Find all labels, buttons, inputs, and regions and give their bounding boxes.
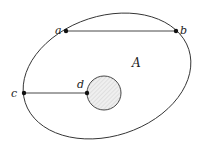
label-d: d	[77, 78, 84, 91]
point-d	[85, 91, 89, 95]
label-b: b	[180, 24, 187, 37]
inner-hole	[87, 76, 121, 110]
point-b	[174, 29, 178, 33]
region-label: A	[131, 56, 141, 70]
point-a	[64, 29, 68, 33]
domain-diagram: a b c d A	[0, 0, 202, 145]
outer-boundary	[7, 0, 202, 145]
point-c	[22, 91, 26, 95]
label-c: c	[11, 87, 17, 100]
label-a: a	[55, 24, 62, 37]
